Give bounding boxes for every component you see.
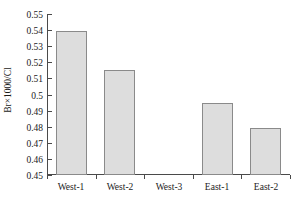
y-tick: 0.55 (47, 14, 52, 15)
x-tick-mark (47, 175, 48, 179)
y-tick-mark (48, 30, 52, 31)
y-tick: 0.53 (47, 46, 52, 47)
y-tick-label: 0.53 (26, 42, 43, 52)
x-tick-mark (144, 175, 145, 179)
y-tick-label: 0.52 (26, 58, 43, 68)
y-tick: 0.54 (47, 30, 52, 31)
y-axis-title-text: Br×1000/Cl (3, 67, 13, 112)
y-tick-label: 0.5 (31, 91, 43, 101)
bar-east-1 (202, 103, 233, 175)
y-tick-mark (48, 62, 52, 63)
x-axis-label-west-1: West-1 (58, 182, 85, 192)
y-tick-mark (48, 175, 52, 176)
y-tick-label: 0.47 (26, 139, 43, 149)
y-tick: 0.52 (47, 62, 52, 63)
y-tick-mark (48, 14, 52, 15)
y-tick-label: 0.46 (26, 155, 43, 165)
y-tick-label: 0.48 (26, 123, 43, 133)
bar-east-2 (250, 128, 281, 175)
y-tick-label: 0.51 (26, 74, 43, 84)
y-tick: 0.5 (47, 95, 52, 96)
y-tick-mark (48, 127, 52, 128)
x-tick-mark (241, 175, 242, 179)
y-tick-label: 0.45 (26, 171, 43, 181)
x-tick-mark (96, 175, 97, 179)
y-tick: 0.49 (47, 111, 52, 112)
y-tick-mark (48, 95, 52, 96)
y-tick-mark (48, 46, 52, 47)
y-tick: 0.46 (47, 159, 52, 160)
bar-west-2 (104, 70, 135, 175)
y-tick-label: 0.55 (26, 10, 43, 20)
y-tick-mark (48, 78, 52, 79)
y-tick-mark (48, 159, 52, 160)
y-tick: 0.48 (47, 127, 52, 128)
y-tick-mark (48, 143, 52, 144)
plot-area: 0.550.540.530.520.510.50.490.480.470.460… (47, 14, 290, 175)
x-tick-mark (193, 175, 194, 179)
y-tick-mark (48, 111, 52, 112)
y-tick: 0.47 (47, 143, 52, 144)
bar-west-1 (56, 31, 87, 175)
y-tick-label: 0.49 (26, 107, 43, 117)
y-tick-label: 0.54 (26, 26, 43, 36)
bar-chart: Br×1000/Cl 0.550.540.530.520.510.50.490.… (0, 0, 302, 206)
x-axis-label-east-1: East-1 (205, 182, 229, 192)
x-tick-mark (290, 175, 291, 179)
y-axis-title: Br×1000/Cl (0, 0, 16, 180)
x-axis-label-west-2: West-2 (107, 182, 134, 192)
x-axis-label-east-2: East-2 (254, 182, 278, 192)
x-axis-label-west-3: West-3 (156, 182, 183, 192)
y-tick: 0.51 (47, 78, 52, 79)
